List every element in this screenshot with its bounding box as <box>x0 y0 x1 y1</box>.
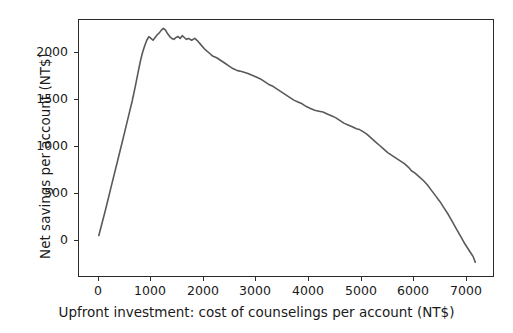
chart-figure: 0 500 1000 1500 2000 0 1000 2000 3000 40… <box>0 0 513 333</box>
xtick-label-0: 0 <box>94 285 102 298</box>
xtick-mark-2000 <box>203 277 204 281</box>
ytick-mark-0 <box>74 240 78 241</box>
net-savings-line <box>99 28 475 262</box>
plot-area <box>78 19 494 277</box>
xtick-label-5000: 5000 <box>345 285 377 298</box>
xtick-mark-5000 <box>361 277 362 281</box>
y-axis-label: Net savings per account (NT$) <box>37 41 53 271</box>
xtick-mark-6000 <box>413 277 414 281</box>
ytick-mark-1000 <box>74 146 78 147</box>
ytick-mark-1500 <box>74 99 78 100</box>
xtick-label-1000: 1000 <box>134 285 166 298</box>
xtick-label-7000: 7000 <box>450 285 482 298</box>
xtick-mark-3000 <box>255 277 256 281</box>
ytick-mark-500 <box>74 193 78 194</box>
xtick-mark-4000 <box>308 277 309 281</box>
xtick-label-6000: 6000 <box>397 285 429 298</box>
xtick-label-2000: 2000 <box>187 285 219 298</box>
xtick-label-3000: 3000 <box>239 285 271 298</box>
xtick-label-4000: 4000 <box>292 285 324 298</box>
xtick-mark-0 <box>98 277 99 281</box>
xtick-mark-1000 <box>150 277 151 281</box>
ytick-mark-2000 <box>74 52 78 53</box>
line-chart-svg <box>79 20 493 276</box>
xtick-mark-7000 <box>466 277 467 281</box>
x-axis-label: Upfront investment: cost of counselings … <box>0 304 513 320</box>
